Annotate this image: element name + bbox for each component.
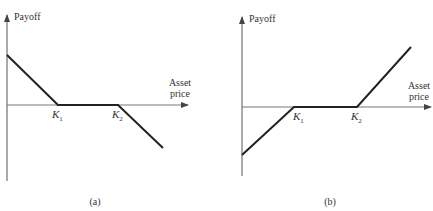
strike-k2-label-a: K2 bbox=[111, 108, 123, 123]
caption-a: (a) bbox=[89, 196, 100, 208]
y-axis-label-a: Payoff bbox=[14, 11, 41, 22]
payoff-line-a bbox=[7, 55, 163, 148]
x-axis-label-a-line2: price bbox=[170, 88, 191, 99]
caption-b: (b) bbox=[324, 196, 336, 208]
diagram-canvas: Payoff Asset price K1 K2 (a) Payoff Asse… bbox=[0, 0, 433, 211]
strike-k2-label-b: K2 bbox=[350, 110, 362, 125]
x-axis-label-b-line1: Asset bbox=[408, 80, 430, 91]
panel-a: Payoff Asset price K1 K2 (a) bbox=[7, 11, 191, 208]
panel-b: Payoff Asset price K1 K2 (b) bbox=[242, 13, 431, 208]
payoff-line-b bbox=[242, 47, 411, 155]
strike-k1-label-b: K1 bbox=[292, 110, 304, 125]
y-axis-label-b: Payoff bbox=[249, 13, 276, 24]
x-axis-label-b-line2: price bbox=[409, 91, 430, 102]
cut-off-caption-text bbox=[0, 0, 433, 3]
x-axis-label-a-line1: Asset bbox=[169, 77, 191, 88]
payoff-diagrams: Payoff Asset price K1 K2 (a) Payoff Asse… bbox=[0, 0, 433, 211]
strike-k1-label-a: K1 bbox=[51, 108, 63, 123]
